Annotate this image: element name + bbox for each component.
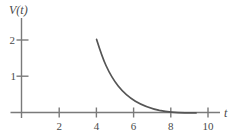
y-tick-label-1: 1: [11, 70, 17, 82]
x-axis-label: t: [224, 106, 228, 120]
y-tick-label-2: 2: [10, 34, 16, 46]
exponential-decay-plot: V(t) t 2 1 2 4 6 8 10: [0, 0, 236, 138]
x-tick-label-2: 2: [56, 120, 62, 132]
x-tick-label-4: 4: [94, 120, 100, 132]
x-tick-label-10: 10: [203, 120, 215, 132]
x-tick-label-8: 8: [168, 120, 174, 132]
x-tick-label-6: 6: [131, 120, 137, 132]
y-axis-label: V(t): [9, 3, 28, 17]
figure-container: V(t) t 2 1 2 4 6 8 10: [0, 0, 236, 138]
decay-curve-path: [97, 39, 196, 113]
